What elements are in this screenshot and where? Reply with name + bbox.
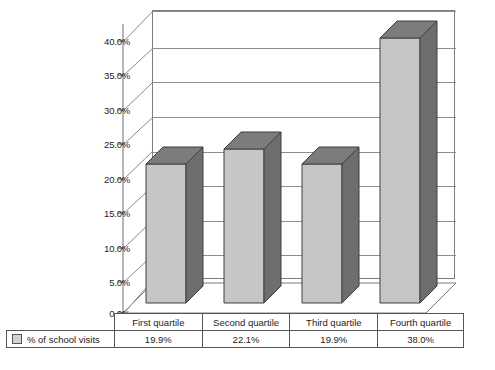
legend-swatch-icon: [12, 334, 22, 344]
chart-plot-area: 40.0% 35.0% 30.0% 25.0% 20.0% 15.0% 10.0…: [0, 0, 495, 318]
table-row-headers: First quartile Second quartile Third qua…: [7, 314, 464, 331]
chart-bars: [0, 0, 495, 318]
table-row-values: % of school visits 19.9% 22.1% 19.9% 38.…: [7, 331, 464, 348]
table-value-second-quartile: 22.1%: [202, 331, 290, 348]
figure-3d-bar-chart: 40.0% 35.0% 30.0% 25.0% 20.0% 15.0% 10.0…: [0, 0, 495, 370]
legend-label: % of school visits: [27, 334, 100, 345]
bar-fourth-quartile: [380, 21, 437, 303]
chart-data-table: First quartile Second quartile Third qua…: [6, 313, 464, 348]
table-header-first-quartile: First quartile: [114, 314, 202, 331]
table-value-fourth-quartile: 38.0%: [378, 331, 464, 348]
table-value-first-quartile: 19.9%: [114, 331, 202, 348]
table-header-fourth-quartile: Fourth quartile: [378, 314, 464, 331]
legend-entry: % of school visits: [7, 331, 115, 348]
table-value-third-quartile: 19.9%: [290, 331, 378, 348]
bar-first-quartile: [146, 147, 203, 303]
bar-third-quartile: [302, 147, 359, 303]
table-header-second-quartile: Second quartile: [202, 314, 290, 331]
table-corner-blank: [7, 314, 115, 331]
bar-second-quartile: [224, 132, 281, 303]
table-header-third-quartile: Third quartile: [290, 314, 378, 331]
